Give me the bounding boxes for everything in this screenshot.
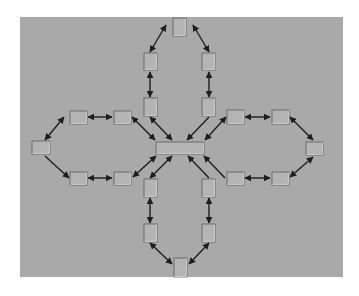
- node-top-apex: [173, 18, 186, 36]
- node-bottom-right-2: [202, 224, 215, 242]
- node-top-right-1: [202, 53, 215, 70]
- node-top-right-2: [202, 98, 215, 116]
- node-right-upper-1: [227, 110, 244, 124]
- node-left-lower-2: [114, 172, 131, 185]
- node-right-lower-2: [272, 172, 289, 185]
- node-right-apex: [306, 142, 323, 155]
- node-bottom-apex: [174, 258, 187, 277]
- node-top-left-2: [144, 98, 157, 116]
- node-top-left-1: [144, 53, 157, 70]
- node-left-apex: [32, 141, 50, 154]
- node-hub: [156, 142, 204, 154]
- flower-loop-diagram: [0, 0, 359, 296]
- node-bottom-right-1: [202, 179, 215, 197]
- node-left-upper-2: [114, 111, 131, 124]
- node-right-lower-1: [227, 172, 244, 185]
- node-left-upper-1: [70, 111, 87, 124]
- node-bottom-left-2: [144, 224, 157, 242]
- node-right-upper-2: [272, 110, 289, 124]
- node-left-lower-1: [70, 172, 87, 185]
- node-bottom-left-1: [144, 179, 157, 197]
